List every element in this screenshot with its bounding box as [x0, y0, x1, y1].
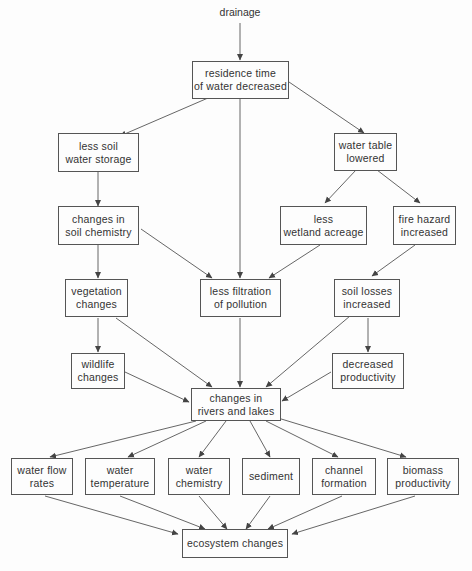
edge-sediment-ecosystem	[246, 496, 270, 529]
edge-flow-ecosystem	[45, 496, 178, 534]
edge-rivers-biomass	[278, 418, 406, 457]
node-changes-rivers-lakes: changes in rivers and lakes	[191, 388, 281, 421]
node-less-filtration-of-pollution: less filtration of pollution	[200, 279, 281, 317]
edge-fire-soil-losses	[372, 245, 415, 276]
edge-wetland-filtration	[269, 245, 320, 278]
node-less-wetland-acreage: less wetland acreage	[280, 206, 367, 245]
node-water-chemistry: water chemistry	[168, 458, 230, 495]
node-soil-losses-increased: soil losses increased	[334, 279, 400, 317]
edge-wildlife-rivers	[125, 372, 189, 402]
node-wildlife-changes: wildlife changes	[71, 353, 125, 389]
edge-water-table-fire	[377, 170, 420, 203]
edge-chemistry-ecosystem	[199, 496, 227, 529]
node-ecosystem-changes: ecosystem changes	[182, 529, 288, 558]
node-water-temperature: water temperature	[85, 458, 155, 495]
node-decreased-productivity: decreased productivity	[332, 353, 404, 389]
node-channel-formation: channel formation	[312, 458, 376, 495]
edge-residence-water-table	[289, 82, 364, 133]
node-water-flow-rates: water flow rates	[11, 458, 73, 495]
edge-channel-ecosystem	[268, 496, 342, 529]
edge-temperature-ecosystem	[120, 496, 205, 529]
node-vegetation-changes: vegetation changes	[65, 279, 128, 317]
drainage-label: drainage	[210, 6, 270, 18]
edge-rivers-flow	[50, 421, 196, 457]
node-sediment: sediment	[242, 458, 300, 495]
edge-rivers-channel	[266, 421, 338, 457]
node-less-soil-water-storage: less soil water storage	[58, 133, 139, 172]
node-water-table-lowered: water table lowered	[334, 133, 397, 171]
edge-rivers-sediment	[250, 421, 270, 457]
drainage-effects-diagram: drainage residence time of water decreas…	[0, 0, 472, 571]
edge-rivers-temperature	[128, 421, 206, 457]
edge-productivity-rivers	[282, 372, 331, 401]
edge-water-table-wetland	[325, 170, 356, 203]
edge-soil-chem-filtration	[141, 229, 212, 278]
edge-residence-soil-storage	[120, 98, 208, 136]
edge-biomass-ecosystem	[292, 496, 415, 534]
edge-rivers-chemistry	[199, 421, 226, 457]
node-residence-time: residence time of water decreased	[192, 61, 289, 99]
edge-vegetation-rivers	[116, 318, 212, 387]
node-fire-hazard-increased: fire hazard increased	[393, 206, 456, 245]
node-biomass-productivity: biomass productivity	[387, 458, 459, 495]
node-changes-soil-chemistry: changes in soil chemistry	[58, 206, 139, 245]
